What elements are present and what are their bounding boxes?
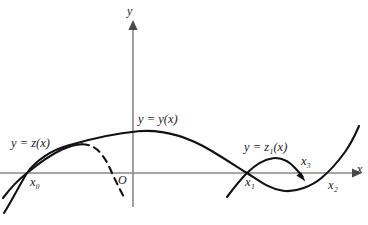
curve-label-z-of-x: y = z(x): [11, 137, 50, 150]
curve-z-of-x-dashed: [82, 144, 125, 199]
curve-y-of-x: [4, 126, 359, 213]
curve-z-of-x-solid: [3, 144, 82, 198]
curve-z-of-x-group: [3, 144, 125, 199]
point-label-x0: x₀: [30, 176, 40, 189]
curve-label-y-of-x: y = y(x): [138, 113, 178, 126]
point-label-x3: x₃: [301, 155, 311, 168]
y-axis-label: y: [127, 5, 132, 17]
curve-diagram-figure: x y O y = z(x) y = y(x) y = z₁(x) x₀ x₁ …: [0, 0, 368, 225]
curve-label-z1-of-x: y = z₁(x): [244, 141, 287, 154]
axes-group: [0, 20, 362, 207]
curve-y-of-x-group: [4, 126, 359, 213]
point-label-x1: x₁: [245, 176, 255, 189]
x-axis-label: x: [357, 163, 362, 175]
diagram-canvas: [0, 0, 368, 225]
origin-label: O: [118, 174, 127, 186]
point-label-x2: x₂: [328, 179, 338, 192]
y-axis-arrowhead: [128, 20, 137, 30]
